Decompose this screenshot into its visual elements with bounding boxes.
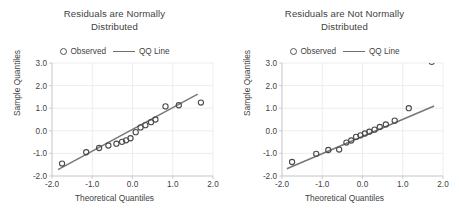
qq-line (58, 94, 198, 169)
chart-panel-not-normal: Residuals are Not Normally Distributed O… (230, 0, 459, 217)
y-tick-label: 2.0 (266, 82, 278, 91)
x-tick-label: 0.0 (357, 180, 369, 189)
x-axis-label-right: Theoretical Quantiles (230, 193, 459, 203)
data-point (106, 143, 111, 148)
qq-plot-figure: Residuals are Normally Distributed Obser… (0, 0, 459, 217)
y-axis-label-left: Sample Quantiles (12, 28, 22, 138)
plot-area-right: -2.0-1.00.01.02.03.0-2.0-1.00.01.02.0 Sa… (230, 0, 459, 217)
y-tick-label: 2.0 (36, 82, 48, 91)
x-tick-label: 1.0 (167, 180, 179, 189)
data-point (114, 141, 119, 146)
data-point (289, 159, 294, 164)
y-tick-label: 1.0 (36, 104, 48, 113)
chart-panel-normal: Residuals are Normally Distributed Obser… (0, 0, 229, 217)
x-tick-label: 2.0 (207, 180, 219, 189)
x-tick-label: -2.0 (275, 180, 290, 189)
y-tick-label: 1.0 (266, 104, 278, 113)
x-tick-label: 1.0 (397, 180, 409, 189)
data-point (59, 161, 64, 166)
qq-line (287, 106, 434, 169)
data-point (133, 130, 138, 135)
y-tick-label: 3.0 (266, 59, 278, 68)
data-point (143, 123, 148, 128)
x-tick-label: 2.0 (437, 180, 449, 189)
x-tick-label: -1.0 (315, 180, 330, 189)
data-point (198, 100, 203, 105)
plot-area-left: -2.0-1.00.01.02.03.0-2.0-1.00.01.02.0 Sa… (0, 0, 229, 217)
y-tick-label: -1.0 (263, 149, 278, 158)
plot-svg-right: -2.0-1.00.01.02.03.0-2.0-1.00.01.02.0 (230, 0, 459, 217)
y-tick-label: 3.0 (36, 59, 48, 68)
x-axis-label-left: Theoretical Quantiles (0, 193, 229, 203)
y-tick-label: -1.0 (33, 149, 48, 158)
x-tick-label: -2.0 (45, 180, 60, 189)
data-point (337, 147, 342, 152)
x-tick-label: -1.0 (85, 180, 100, 189)
x-tick-label: 0.0 (127, 180, 139, 189)
y-tick-label: 0.0 (266, 127, 278, 136)
plot-svg-left: -2.0-1.00.01.02.03.0-2.0-1.00.01.02.0 (0, 0, 229, 217)
y-tick-label: 0.0 (36, 127, 48, 136)
y-axis-label-right: Sample Quantiles (242, 28, 252, 138)
data-point (429, 59, 434, 64)
